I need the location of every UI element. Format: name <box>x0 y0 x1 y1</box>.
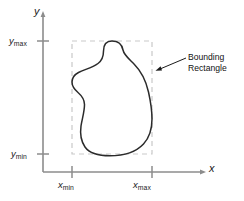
blob-outline <box>72 41 152 156</box>
y-axis-label: y <box>34 6 40 17</box>
x-axis-label: x <box>209 163 215 174</box>
x-min-tick-label: xmin <box>58 180 74 190</box>
callout-arrowhead <box>156 66 163 71</box>
x-max-tick-label: xmax <box>133 180 151 190</box>
bounding-rectangle-dashed <box>72 41 152 154</box>
y-axis-arrowhead <box>41 11 46 17</box>
y-min-tick-label: ymin <box>11 149 27 159</box>
x-max-subscript: max <box>138 184 151 191</box>
y-max-tick-label: ymax <box>9 36 27 46</box>
bounding-rectangle-callout: Bounding Rectangle <box>188 52 227 73</box>
bounding-rectangle-figure: y x ymax ymin xmin xmax Bounding Rectang… <box>0 0 244 201</box>
y-max-subscript: max <box>14 40 27 47</box>
y-min-subscript: min <box>16 153 27 160</box>
callout-line-2: Rectangle <box>188 63 227 74</box>
x-axis-arrowhead <box>200 170 206 175</box>
diagram-canvas <box>0 0 244 201</box>
callout-line-1: Bounding <box>188 52 227 63</box>
callout-leader-line <box>160 58 186 69</box>
x-min-subscript: min <box>63 184 74 191</box>
